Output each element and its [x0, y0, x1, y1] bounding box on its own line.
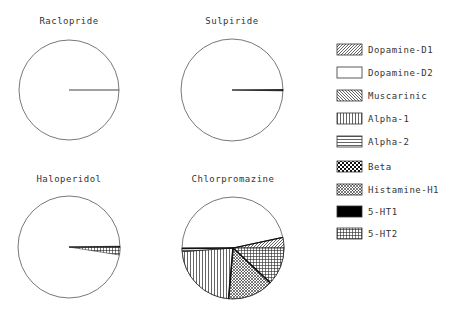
legend-item-histamine-h1: Histamine-H1	[337, 184, 439, 195]
pie-sulpiride: Sulpiride	[181, 16, 283, 141]
svg-text:Histamine-H1: Histamine-H1	[368, 185, 439, 195]
pattern-swatch-icon	[337, 228, 362, 239]
pie-chart-figure: Raclopride Sulpiride Haloperidol Chlorpr…	[0, 0, 457, 313]
legend-item-5-ht2: 5-HT2	[337, 228, 398, 239]
pie-chlorpromazine: Chlorpromazine	[182, 174, 284, 299]
svg-text:Alpha-2: Alpha-2	[368, 137, 409, 147]
legend-item-5-ht1: 5-HT1	[337, 206, 398, 217]
pie-raclopride: Raclopride	[19, 16, 119, 140]
legend-item-alpha-2: Alpha-2	[337, 136, 409, 147]
svg-text:5-HT2: 5-HT2	[368, 229, 398, 239]
chart-title-raclopride: Raclopride	[39, 16, 98, 26]
pattern-swatch-icon	[337, 206, 362, 217]
slice-alpha-1	[182, 248, 233, 299]
svg-text:5-HT1: 5-HT1	[368, 207, 398, 217]
svg-text:Muscarinic: Muscarinic	[368, 91, 427, 101]
legend-item-alpha-1: Alpha-1	[337, 113, 409, 124]
legend-item-dopamine-d2: Dopamine-D2	[337, 67, 433, 78]
pattern-swatch-icon	[337, 113, 362, 124]
slice-boundary	[182, 248, 233, 249]
chart-title-sulpiride: Sulpiride	[205, 16, 258, 26]
chart-title-haloperidol: Haloperidol	[36, 174, 101, 184]
svg-text:Alpha-1: Alpha-1	[368, 114, 409, 124]
pattern-swatch-icon	[337, 184, 362, 195]
legend-item-dopamine-d1: Dopamine-D1	[337, 44, 433, 55]
legend-item-muscarinic: Muscarinic	[337, 90, 427, 101]
legend-item-beta: Beta	[337, 161, 392, 172]
pie-haloperidol: Haloperidol	[18, 174, 120, 298]
svg-text:Dopamine-D2: Dopamine-D2	[368, 68, 433, 78]
svg-text:Dopamine-D1: Dopamine-D1	[368, 45, 433, 55]
pattern-swatch-icon	[337, 44, 362, 55]
svg-text:Beta: Beta	[368, 162, 392, 172]
chart-title-chlorpromazine: Chlorpromazine	[192, 174, 275, 184]
pattern-swatch-icon	[337, 90, 362, 101]
legend: Dopamine-D1 Dopamine-D2 Muscarinic Alpha…	[337, 44, 439, 239]
pattern-swatch-icon	[337, 136, 362, 147]
pattern-swatch-icon	[337, 161, 362, 172]
pattern-swatch-icon	[337, 67, 362, 78]
